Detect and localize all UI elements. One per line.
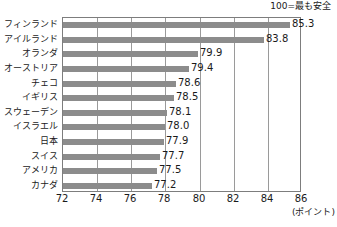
plot-area bbox=[62, 17, 301, 192]
x-tick-label: 74 bbox=[90, 193, 103, 205]
x-tick-label: 82 bbox=[227, 193, 240, 205]
bar-row bbox=[63, 139, 300, 145]
bar-row bbox=[63, 22, 300, 28]
bar-rows bbox=[63, 18, 300, 191]
bar-row bbox=[63, 37, 300, 43]
category-label: オーストリア bbox=[4, 63, 58, 73]
bar bbox=[63, 183, 152, 189]
category-label: スウェーデン bbox=[4, 107, 58, 117]
category-label: チェコ bbox=[31, 78, 58, 88]
category-label: オランダ bbox=[22, 48, 58, 58]
category-label: アメリカ bbox=[22, 165, 58, 175]
x-axis-unit-label: (ポイント) bbox=[292, 207, 335, 218]
category-label: スイス bbox=[31, 151, 58, 161]
bar-row bbox=[63, 168, 300, 174]
bar-row bbox=[63, 51, 300, 57]
bar bbox=[63, 139, 164, 145]
bar-row bbox=[63, 110, 300, 116]
bar-row bbox=[63, 124, 300, 130]
bar bbox=[63, 22, 290, 28]
bar bbox=[63, 37, 264, 43]
bar bbox=[63, 110, 167, 116]
x-tick-label: 80 bbox=[193, 193, 206, 205]
chart-annotation: 100=最も安全 bbox=[270, 1, 331, 12]
bar-row bbox=[63, 66, 300, 72]
x-tick-label: 84 bbox=[261, 193, 274, 205]
bar-chart: 100=最も安全 フィンランドアイルランドオランダオーストリアチェコイギリススウ… bbox=[0, 0, 337, 227]
bar bbox=[63, 51, 198, 57]
x-tick-label: 76 bbox=[124, 193, 137, 205]
category-label: イギリス bbox=[22, 92, 58, 102]
bar bbox=[63, 154, 160, 160]
bar bbox=[63, 124, 165, 130]
bar-row bbox=[63, 81, 300, 87]
bar bbox=[63, 168, 157, 174]
category-label: フィンランド bbox=[4, 19, 58, 29]
bar-row bbox=[63, 95, 300, 101]
category-label: カナダ bbox=[31, 180, 58, 190]
x-axis-ticks: 7274767880828486 bbox=[62, 193, 301, 209]
x-tick-label: 86 bbox=[295, 193, 308, 205]
x-tick-label: 78 bbox=[158, 193, 171, 205]
x-tick-label: 72 bbox=[56, 193, 69, 205]
bar bbox=[63, 81, 176, 87]
category-label: アイルランド bbox=[4, 34, 58, 44]
bar bbox=[63, 66, 189, 72]
bar-row bbox=[63, 183, 300, 189]
category-axis-labels: フィンランドアイルランドオランダオーストリアチェコイギリススウェーデンイスラエル… bbox=[0, 17, 60, 192]
category-label: 日本 bbox=[40, 136, 58, 146]
category-label: イスラエル bbox=[13, 121, 58, 131]
bar-row bbox=[63, 154, 300, 160]
bar bbox=[63, 95, 174, 101]
